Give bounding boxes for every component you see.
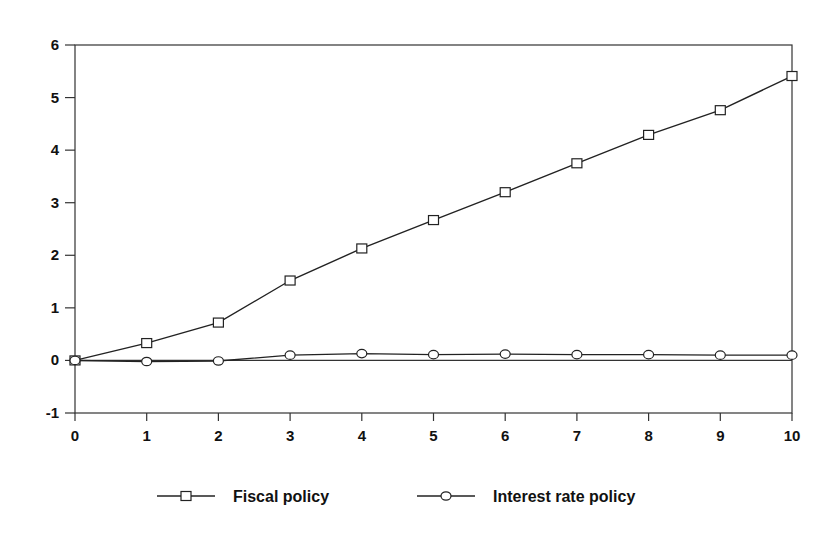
- square-marker-icon: [285, 276, 295, 285]
- legend-label: Fiscal policy: [233, 488, 329, 505]
- circle-marker-icon: [787, 351, 797, 359]
- y-tick-label: 5: [51, 89, 59, 106]
- legend-label: Interest rate policy: [493, 488, 635, 505]
- circle-marker-icon: [285, 351, 295, 359]
- circle-marker-icon: [213, 357, 223, 365]
- x-tick-label: 5: [429, 427, 437, 444]
- legend-item-fiscal-policy: Fiscal policy: [157, 488, 329, 505]
- y-tick-label: 4: [51, 141, 60, 158]
- y-tick-label: 1: [51, 299, 59, 316]
- x-tick-label: 4: [358, 427, 367, 444]
- x-tick-label: 2: [214, 427, 222, 444]
- circle-marker-icon: [357, 349, 367, 357]
- square-marker-icon: [787, 72, 797, 81]
- circle-marker-icon: [70, 356, 80, 364]
- square-marker-icon: [181, 492, 191, 501]
- square-marker-icon: [357, 244, 367, 253]
- x-axis: 012345678910: [71, 413, 801, 444]
- x-tick-label: 1: [143, 427, 151, 444]
- square-marker-icon: [213, 318, 223, 327]
- x-tick-label: 6: [501, 427, 509, 444]
- square-marker-icon: [429, 216, 439, 225]
- y-tick-label: 2: [51, 246, 59, 263]
- line-chart: -10123456 012345678910 Fiscal policy Int…: [0, 0, 839, 536]
- x-tick-label: 3: [286, 427, 294, 444]
- circle-marker-icon: [715, 351, 725, 359]
- x-tick-label: 8: [644, 427, 652, 444]
- x-tick-label: 9: [716, 427, 724, 444]
- y-tick-label: 6: [51, 36, 59, 53]
- y-tick-label: 0: [51, 351, 59, 368]
- x-tick-label: 10: [784, 427, 801, 444]
- circle-marker-icon: [441, 492, 451, 500]
- circle-marker-icon: [429, 350, 439, 358]
- y-tick-label: -1: [46, 404, 59, 421]
- legend-item-interest-rate-policy: Interest rate policy: [417, 488, 635, 505]
- square-marker-icon: [142, 339, 152, 348]
- series-layer: [70, 72, 797, 366]
- square-marker-icon: [644, 130, 654, 139]
- circle-marker-icon: [644, 350, 654, 358]
- legend: Fiscal policy Interest rate policy: [157, 488, 635, 505]
- circle-marker-icon: [572, 350, 582, 358]
- x-tick-label: 0: [71, 427, 79, 444]
- square-marker-icon: [715, 106, 725, 115]
- y-tick-label: 3: [51, 194, 59, 211]
- series-fiscal-policy: [70, 72, 797, 365]
- square-marker-icon: [500, 188, 510, 197]
- square-marker-icon: [572, 159, 582, 168]
- series-interest-rate-policy: [70, 349, 797, 365]
- circle-marker-icon: [500, 350, 510, 358]
- circle-marker-icon: [142, 357, 152, 365]
- x-tick-label: 7: [573, 427, 581, 444]
